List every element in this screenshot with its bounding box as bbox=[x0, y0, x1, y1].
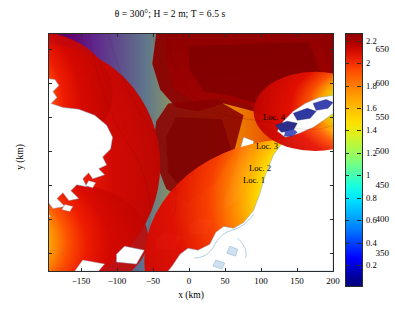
y-tick-right-650 bbox=[330, 49, 334, 50]
x-tick-neg50 bbox=[153, 268, 154, 272]
x-tick-top-200 bbox=[333, 33, 334, 37]
x-tick-top-neg150 bbox=[81, 33, 82, 37]
cbar-tick-2 bbox=[345, 63, 349, 64]
cbar-tick-right-1-8 bbox=[357, 86, 361, 87]
cbar-label-1-2: 1.2 bbox=[366, 148, 377, 158]
y-tick-350 bbox=[48, 253, 52, 254]
y-tick-450 bbox=[48, 185, 52, 186]
x-tick-top-50 bbox=[225, 33, 226, 37]
x-tick-top-150 bbox=[297, 33, 298, 37]
cbar-label-1-6: 1.6 bbox=[366, 103, 377, 113]
y-tick-650 bbox=[48, 49, 52, 50]
y-tick-500 bbox=[48, 151, 52, 152]
y-axis-label: y (km) bbox=[15, 117, 25, 197]
cbar-tick-right-0-4 bbox=[357, 243, 361, 244]
plot-axes bbox=[48, 33, 334, 272]
cbar-label-1-4: 1.4 bbox=[366, 125, 377, 135]
x-tick-150 bbox=[297, 268, 298, 272]
cbar-tick-right-2 bbox=[357, 63, 361, 64]
cbar-tick-right-1-6 bbox=[357, 108, 361, 109]
x-tick-100 bbox=[261, 268, 262, 272]
x-tick-label-neg50: −50 bbox=[146, 276, 160, 286]
x-tick-top-neg50 bbox=[153, 33, 154, 37]
y-tick-400 bbox=[48, 219, 52, 220]
cbar-tick-0-6 bbox=[345, 220, 349, 221]
cbar-tick-2-2 bbox=[345, 41, 349, 42]
figure-root: θ = 300°; H = 2 m; T = 6.5 s bbox=[0, 0, 395, 314]
cbar-label-2-2: 2.2 bbox=[366, 36, 377, 46]
x-tick-neg150 bbox=[81, 268, 82, 272]
x-tick-label-150: 150 bbox=[290, 276, 304, 286]
x-tick-label-neg100: −100 bbox=[108, 276, 127, 286]
contour-map bbox=[49, 34, 333, 271]
cbar-tick-0-8 bbox=[345, 198, 349, 199]
cbar-label-0-4: 0.4 bbox=[366, 238, 377, 248]
chart-title: θ = 300°; H = 2 m; T = 6.5 s bbox=[0, 9, 340, 19]
x-tick-label-200: 200 bbox=[326, 276, 340, 286]
cbar-tick-right-0-2 bbox=[357, 265, 361, 266]
y-tick-600 bbox=[48, 83, 52, 84]
cbar-tick-right-0-6 bbox=[357, 220, 361, 221]
colorbar-gradient bbox=[346, 34, 362, 286]
x-tick-label-neg150: −150 bbox=[72, 276, 91, 286]
cbar-label-0-8: 0.8 bbox=[366, 193, 377, 203]
cbar-tick-1-6 bbox=[345, 108, 349, 109]
cbar-tick-1-8 bbox=[345, 86, 349, 87]
cbar-tick-1 bbox=[345, 175, 349, 176]
annotation-loc-1: Loc. 1 bbox=[243, 176, 265, 185]
cbar-tick-0-2 bbox=[345, 265, 349, 266]
x-axis-label: x (km) bbox=[48, 290, 334, 300]
x-tick-50 bbox=[225, 268, 226, 272]
x-tick-0 bbox=[189, 268, 190, 272]
cbar-tick-0-4 bbox=[345, 243, 349, 244]
cbar-label-0-2: 0.2 bbox=[366, 260, 377, 270]
y-tick-right-550 bbox=[330, 117, 334, 118]
cbar-label-0-6: 0.6 bbox=[366, 215, 377, 225]
colorbar bbox=[345, 33, 363, 287]
x-tick-label-0: 0 bbox=[187, 276, 192, 286]
y-tick-550 bbox=[48, 117, 52, 118]
cbar-tick-right-1-2 bbox=[357, 153, 361, 154]
annotation-loc-2: Loc. 2 bbox=[249, 164, 271, 173]
y-tick-right-600 bbox=[330, 83, 334, 84]
x-tick-label-100: 100 bbox=[254, 276, 268, 286]
x-tick-label-50: 50 bbox=[221, 276, 230, 286]
wave-height-field bbox=[49, 34, 333, 271]
cbar-label-1: 1 bbox=[366, 170, 370, 180]
cbar-tick-right-1 bbox=[357, 175, 361, 176]
y-tick-right-450 bbox=[330, 185, 334, 186]
cbar-tick-right-1-4 bbox=[357, 130, 361, 131]
y-tick-right-400 bbox=[330, 219, 334, 220]
x-tick-top-100 bbox=[261, 33, 262, 37]
x-tick-200 bbox=[333, 268, 334, 272]
cbar-tick-1-2 bbox=[345, 153, 349, 154]
y-tick-right-350 bbox=[330, 253, 334, 254]
annotation-loc-3: Loc. 3 bbox=[256, 142, 278, 151]
cbar-label-2: 2 bbox=[366, 58, 370, 68]
x-tick-neg100 bbox=[117, 268, 118, 272]
x-tick-top-0 bbox=[189, 33, 190, 37]
cbar-tick-right-2-2 bbox=[357, 41, 361, 42]
y-tick-right-500 bbox=[330, 151, 334, 152]
cbar-tick-right-0-8 bbox=[357, 198, 361, 199]
x-tick-top-neg100 bbox=[117, 33, 118, 37]
annotation-loc-4: Loc. 4 bbox=[263, 113, 285, 122]
cbar-label-1-8: 1.8 bbox=[366, 81, 377, 91]
cbar-tick-1-4 bbox=[345, 130, 349, 131]
